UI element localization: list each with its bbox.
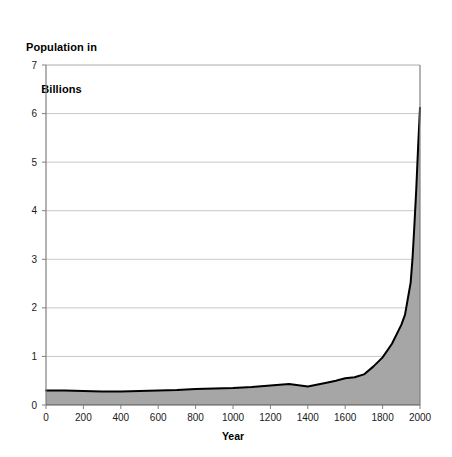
y-axis-tick-labels: 01234567 (31, 60, 37, 411)
x-axis-title: Year (222, 430, 244, 442)
y-tick-label: 1 (31, 351, 37, 362)
x-tick-label: 600 (150, 412, 167, 423)
gridlines (46, 65, 420, 356)
population-area-series (46, 108, 420, 405)
plot-area: 0200400600800100012001400160018002000 01… (0, 0, 452, 457)
area-fill (46, 108, 420, 405)
y-tick-label: 7 (31, 60, 37, 71)
x-tick-label: 800 (187, 412, 204, 423)
series-line (46, 108, 420, 392)
y-tick-label: 5 (31, 157, 37, 168)
y-tick-label: 4 (31, 205, 37, 216)
x-tick-label: 1400 (297, 412, 320, 423)
x-tick-label: 200 (75, 412, 92, 423)
x-tick-label: 400 (112, 412, 129, 423)
x-tick-label: 1000 (222, 412, 245, 423)
x-tick-label: 1600 (334, 412, 357, 423)
x-tick-label: 1200 (259, 412, 282, 423)
y-tick-label: 6 (31, 108, 37, 119)
y-tick-label: 3 (31, 254, 37, 265)
y-tick-label: 2 (31, 302, 37, 313)
x-tick-label: 1800 (371, 412, 394, 423)
y-tick-label: 0 (31, 400, 37, 411)
x-axis-tick-labels: 0200400600800100012001400160018002000 (43, 412, 431, 423)
x-tick-label: 0 (43, 412, 49, 423)
axes (46, 65, 420, 405)
population-chart: Population in Billions 02004006008001000… (0, 0, 452, 457)
x-tick-label: 2000 (409, 412, 432, 423)
